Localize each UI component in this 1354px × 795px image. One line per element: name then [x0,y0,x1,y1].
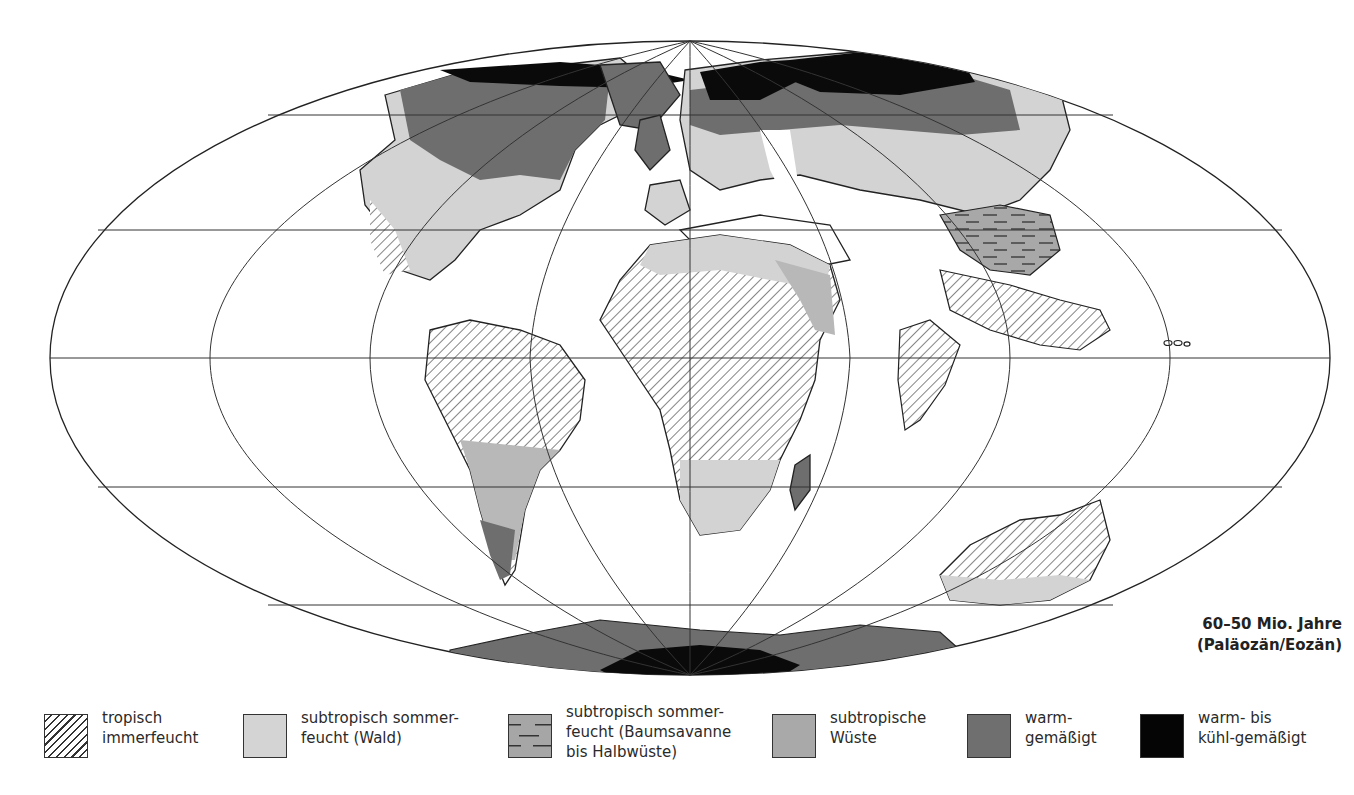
legend-item-subtropische-wueste: subtropische Wüste [772,708,926,758]
mid-gray-swatch-icon [772,714,816,758]
paleoclimate-world-map [0,0,1354,690]
black-swatch-icon [1140,714,1184,758]
dashed-swatch-icon [508,714,552,758]
era-label-years: 60–50 Mio. Jahre [1197,614,1342,635]
dark-gray-swatch-icon [967,714,1011,758]
light-gray-swatch-icon [243,714,287,758]
hatch-swatch-icon [44,714,88,758]
legend: tropisch immerfeucht subtropisch sommer-… [0,700,1354,790]
legend-item-tropisch-immerfeucht: tropisch immerfeucht [44,708,198,758]
legend-item-warm-gemaessigt: warm- gemäßigt [967,708,1097,758]
era-label: 60–50 Mio. Jahre (Paläozän/Eozän) [1197,614,1342,656]
pacific-islands [1164,341,1190,347]
legend-item-subtropisch-wald: subtropisch sommer- feucht (Wald) [243,708,459,758]
legend-item-subtropisch-savanne: subtropisch sommer- feucht (Baumsavanne … [508,702,731,762]
era-label-epoch: (Paläozän/Eozän) [1197,635,1342,656]
legend-item-warm-bis-kuehl-gemaessigt: warm- bis kühl-gemäßigt [1140,708,1306,758]
